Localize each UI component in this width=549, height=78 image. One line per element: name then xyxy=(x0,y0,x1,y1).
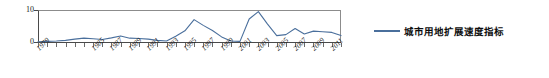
y-axis: 10 0 xyxy=(0,0,34,78)
legend: 城市用地扩展速度指标 xyxy=(374,24,504,38)
legend-item-label: 城市用地扩展速度指标 xyxy=(404,24,504,38)
legend-line-swatch xyxy=(374,30,400,32)
y-axis-tick-label-10: 10 xyxy=(26,6,34,14)
line-chart: 10 0 19791985198719891991199319951997199… xyxy=(0,0,549,78)
x-axis-labels: 1979198519871989199119931995199719992001… xyxy=(38,47,378,78)
